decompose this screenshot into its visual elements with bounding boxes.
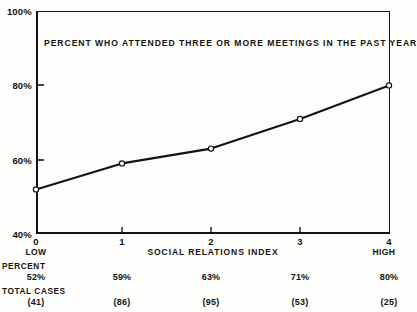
x-tick-label-4: 4 [374, 236, 404, 247]
annotation-percent-3: 71% [280, 272, 320, 282]
annotation-row-label-total-cases: TOTAL CASES [2, 286, 66, 296]
annotation-percent-4: 80% [369, 272, 409, 282]
x-tick-label-3: 3 [285, 236, 315, 247]
annotation-total-cases-4: (25) [369, 297, 409, 307]
annotation-total-cases-3: (53) [280, 297, 320, 307]
annotation-percent-0: 52% [16, 272, 56, 282]
annotation-total-cases-0: (41) [16, 297, 56, 307]
x-axis-low-label: LOW [16, 247, 56, 257]
x-axis-high-label: HIGH [364, 247, 404, 257]
annotation-percent-1: 59% [102, 272, 142, 282]
annotation-total-cases-1: (86) [102, 297, 142, 307]
x-axis-title: SOCIAL RELATIONS INDEX [93, 247, 333, 257]
annotation-percent-2: 63% [191, 272, 231, 282]
annotation-row-label-percent: PERCENT [2, 261, 46, 271]
x-tick-label-0: 0 [21, 236, 51, 247]
x-tick-label-1: 1 [107, 236, 137, 247]
x-tick-label-2: 2 [196, 236, 226, 247]
annotation-total-cases-2: (95) [191, 297, 231, 307]
